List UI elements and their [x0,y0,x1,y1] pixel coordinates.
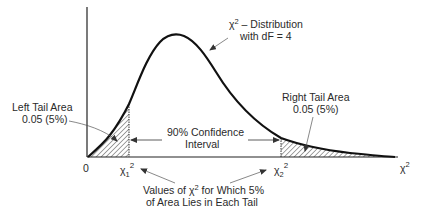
left-tail-shaded-area [88,104,129,157]
left-tail-label-line2: 0.05 (5%) [22,113,68,125]
right-tail-label-line2: 0.05 (5%) [293,103,339,115]
curve-title-line1: χ2 – Distribution [229,17,303,30]
curve-title-leader [210,38,228,50]
right-tail-shaded-area [281,138,395,157]
right-tail-label-line1: Right Tail Area [282,91,350,103]
chi2-label: χ22 [274,161,289,179]
ci-label-line2: Interval [185,138,219,150]
x-axis-label: χ2 [400,160,410,174]
values-label-line2: of Area Lies in Each Tail [146,196,258,208]
ci-label-line1: 90% Confidence [167,126,244,138]
chi1-label: χ12 [120,161,135,179]
curve-title-line2: with dF = 4 [239,30,292,42]
left-tail-label-line1: Left Tail Area [12,101,73,113]
origin-label: 0 [83,162,89,174]
chi-square-diagram: χ2 – Distribution with dF = 4 Left Tail … [0,0,424,215]
values-label-line1: Values of χ2 for Which 5% [143,183,264,196]
values-leader-right [230,170,266,183]
values-leader-left [141,169,175,183]
